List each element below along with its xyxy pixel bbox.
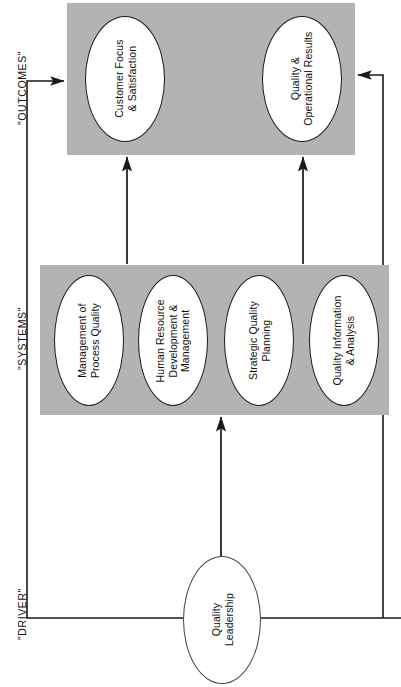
node-quality-leadership-label: Quality Leadership xyxy=(209,594,234,647)
node-management-of-process-quality-label: Management of Process Quality xyxy=(76,303,101,378)
node-line: Customer Focus xyxy=(112,40,125,118)
node-line: & Satisfaction xyxy=(125,40,138,118)
node-line: Quality xyxy=(209,594,222,647)
node-quality-operational-results[interactable]: Quality & Operational Results xyxy=(262,16,342,142)
zone-label-systems-text: "SYSTEMS" xyxy=(16,307,28,370)
zone-label-outcomes-text: "OUTCOMES" xyxy=(16,51,28,125)
node-human-resource-development-management-label: Human Resource Development & Management xyxy=(154,299,192,382)
node-line: Management of xyxy=(76,303,89,378)
node-line: Quality & xyxy=(289,32,302,126)
node-line: Development & xyxy=(167,299,180,382)
node-strategic-quality-planning[interactable]: Strategic Quality Planning xyxy=(224,275,294,406)
node-line: Operational Results xyxy=(302,32,315,126)
node-line: Quality Information xyxy=(331,295,344,385)
zone-label-outcomes: "OUTCOMES" xyxy=(16,51,28,125)
node-line: Leadership xyxy=(222,594,235,647)
node-customer-focus-satisfaction-label: Customer Focus & Satisfaction xyxy=(112,40,137,118)
zone-label-driver-text: "DRIVER" xyxy=(16,588,28,640)
node-quality-information-analysis[interactable]: Quality Information & Analysis xyxy=(309,275,379,406)
zone-label-driver: "DRIVER" xyxy=(16,588,28,640)
node-quality-leadership[interactable]: Quality Leadership xyxy=(183,556,261,684)
zone-label-systems: "SYSTEMS" xyxy=(16,307,28,370)
node-management-of-process-quality[interactable]: Management of Process Quality xyxy=(54,275,124,406)
node-human-resource-development-management[interactable]: Human Resource Development & Management xyxy=(138,275,208,406)
node-line: & Analysis xyxy=(344,295,357,385)
node-quality-information-analysis-label: Quality Information & Analysis xyxy=(331,295,356,385)
node-line: Planning xyxy=(259,301,272,380)
node-line: Strategic Quality xyxy=(246,301,259,380)
node-strategic-quality-planning-label: Strategic Quality Planning xyxy=(246,301,271,380)
node-line: Management xyxy=(179,299,192,382)
diagram-canvas: "OUTCOMES" "SYSTEMS" "DRIVER" Customer F… xyxy=(0,0,401,687)
node-quality-operational-results-label: Quality & Operational Results xyxy=(289,32,314,126)
node-customer-focus-satisfaction[interactable]: Customer Focus & Satisfaction xyxy=(85,16,165,142)
node-line: Human Resource xyxy=(154,299,167,382)
node-line: Process Quality xyxy=(89,303,102,378)
